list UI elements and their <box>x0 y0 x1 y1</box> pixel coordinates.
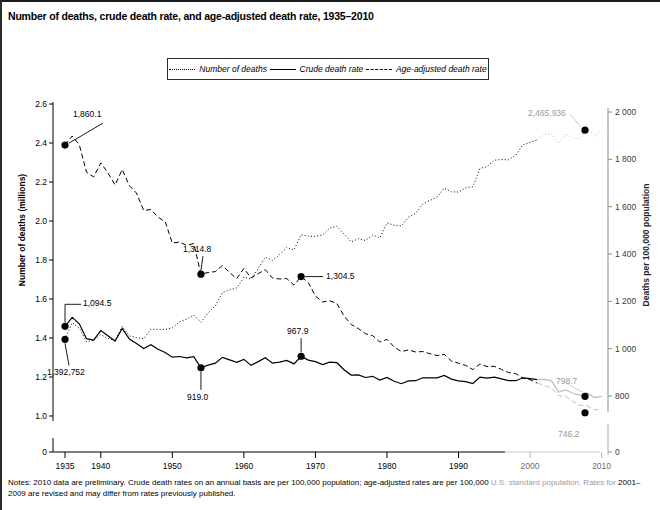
annotation-1314-8: 1,314.8 <box>183 244 211 254</box>
y-tick-label-left-1.2: 1.2 <box>21 372 47 382</box>
x-tick-label-1970: 1970 <box>295 461 335 471</box>
annotation-2465936: 2,465,936 <box>528 108 566 118</box>
annotation-967-9: 967.9 <box>287 326 308 336</box>
marker-age-adjusted-1954 <box>197 271 204 278</box>
y-tick-label-left-2.2: 2.2 <box>21 177 47 187</box>
y-tick-label-left-1.8: 1.8 <box>21 255 47 265</box>
x-tick-label-1990: 1990 <box>439 461 479 471</box>
y-tick-label-left-1.6: 1.6 <box>21 294 47 304</box>
x-tick-label-1940: 1940 <box>81 461 121 471</box>
plot-area: Number of deaths (millions) Deaths per 1… <box>0 0 660 510</box>
y-tick-label-left-2.0: 2.0 <box>21 216 47 226</box>
y-tick-label-right-1600: 1 600 <box>615 202 655 212</box>
annotation-798-7: 798.7 <box>556 376 577 386</box>
marker-crude-2010 <box>581 393 588 400</box>
series-line-faded-number-of-deaths <box>537 129 601 143</box>
annotation-919-0: 919.0 <box>187 392 208 402</box>
y-tick-label-right-800: 800 <box>615 391 655 401</box>
figure-container: Number of deaths, crude death rate, and … <box>0 0 660 510</box>
marker-age-adjusted-1935 <box>61 142 68 149</box>
series-line-number-of-deaths <box>65 140 537 342</box>
y-tick-label-right-0: 0 <box>615 447 655 457</box>
y-tick-label-left-2.4: 2.4 <box>21 138 47 148</box>
marker-deaths-2010 <box>581 127 588 134</box>
marker-crude-1968 <box>298 353 305 360</box>
marker-crude-1954 <box>197 364 204 371</box>
y-tick-label-right-1800: 1 800 <box>615 154 655 164</box>
figure-notes: Notes: 2010 data are preliminary. Crude … <box>8 477 652 499</box>
y-tick-label-left-0: 0 <box>21 447 47 457</box>
annotation-1304-5: 1,304.5 <box>326 271 354 281</box>
y-tick-label-left-2.6: 2.6 <box>21 99 47 109</box>
y-axis-label-right: Deaths per 100,000 population <box>641 180 651 310</box>
y-tick-label-right-2000: 2 000 <box>615 107 655 117</box>
annotation-746-2: 746.2 <box>558 429 579 439</box>
y-tick-label-left-1.4: 1.4 <box>21 333 47 343</box>
y-tick-label-right-1400: 1 400 <box>615 249 655 259</box>
marker-crude-1935 <box>61 323 68 330</box>
x-tick-label-1980: 1980 <box>367 461 407 471</box>
annotation-1392752: 1,392,752 <box>47 367 85 377</box>
notes-line-1-tail: U.S. standard population. Rates for <box>491 478 616 487</box>
x-tick-label-1960: 1960 <box>224 461 264 471</box>
y-tick-label-right-1200: 1 200 <box>615 296 655 306</box>
x-tick-label-1935: 1935 <box>45 461 85 471</box>
y-tick-label-left-1.0: 1.0 <box>21 411 47 421</box>
y-tick-label-right-1000: 1 000 <box>615 344 655 354</box>
marker-age-adjusted-2010 <box>581 409 588 416</box>
notes-line-1: Notes: 2010 data are preliminary. Crude … <box>8 478 491 487</box>
x-tick-label-2010: 2010 <box>582 461 622 471</box>
x-tick-label-1950: 1950 <box>152 461 192 471</box>
marker-deaths-1935 <box>61 336 68 343</box>
annotation-1094-5: 1,094.5 <box>83 298 111 308</box>
x-tick-label-2000: 2000 <box>510 461 550 471</box>
marker-age-adjusted-1968 <box>298 273 305 280</box>
y-axis-label-left: Number of deaths (millions) <box>17 170 27 290</box>
annotation-1860-1: 1,860.1 <box>73 109 101 119</box>
